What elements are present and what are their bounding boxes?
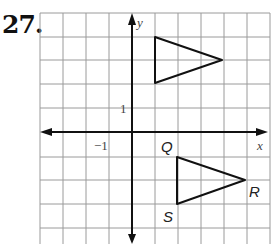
vertex-label-r: R (249, 183, 260, 200)
x-axis-left-arrow-icon (40, 128, 52, 136)
vertex-label-q: Q (161, 138, 173, 155)
y-tick-label-1: 1 (120, 101, 127, 116)
x-axis-right-arrow-icon (256, 128, 268, 136)
vertex-label-s: S (163, 208, 173, 225)
y-axis-up-arrow-icon (128, 13, 136, 25)
x-axis-label: x (256, 138, 263, 153)
y-axis-down-arrow-icon (128, 234, 136, 244)
coordinate-grid: y x −1 1 Q R S (0, 0, 276, 244)
x-tick-label-neg1: −1 (94, 138, 108, 153)
y-axis-label: y (135, 15, 143, 30)
